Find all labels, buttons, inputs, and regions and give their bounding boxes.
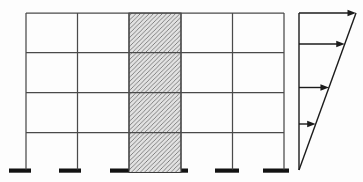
footing-pad [215, 169, 239, 173]
figure-canvas [0, 0, 363, 182]
frame-shear-wall-diagram [0, 0, 363, 182]
load-envelope-line [299, 13, 356, 170]
footing-pad [263, 169, 289, 173]
load-diagram [299, 10, 356, 170]
footing-pad [9, 169, 31, 173]
